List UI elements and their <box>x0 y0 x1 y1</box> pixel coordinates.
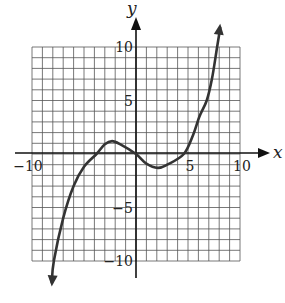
cubic-function-graph: −10510105−5−10 x y <box>0 0 285 303</box>
y-tick-label: 5 <box>124 93 133 109</box>
x-axis-label: x <box>273 142 283 162</box>
x-tick-label: 5 <box>186 158 195 174</box>
y-axis-arrow-icon <box>131 17 141 30</box>
curve-arrow-down-icon <box>48 275 58 286</box>
axes <box>15 17 270 278</box>
y-axis-label: y <box>126 0 137 18</box>
y-tick-label: 10 <box>115 39 133 55</box>
x-tick-label: −10 <box>13 158 43 174</box>
y-tick-label: −5 <box>112 200 133 216</box>
y-tick-label: −10 <box>103 253 133 269</box>
x-axis-arrow-icon <box>258 148 270 158</box>
x-tick-label: 10 <box>233 158 251 174</box>
curve-arrow-up-icon <box>214 24 224 36</box>
